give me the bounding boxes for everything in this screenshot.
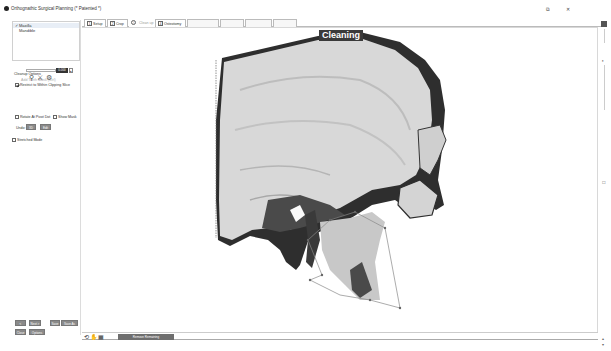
- frame-icon[interactable]: ☐: [602, 180, 606, 185]
- color-icon[interactable]: ◐: [602, 58, 604, 63]
- rotate-icon[interactable]: ⟲: [84, 333, 89, 341]
- skull-model[interactable]: [0, 0, 611, 351]
- divider: [604, 65, 605, 110]
- bottom-toolbar: ⟲ ✋ ▦ Remove Remaining: [82, 332, 598, 340]
- pan-icon[interactable]: ✋: [90, 333, 97, 341]
- scroll-down-icon[interactable]: ▾: [602, 342, 604, 347]
- remove-remaining-button[interactable]: Remove Remaining: [118, 334, 174, 340]
- grid-icon[interactable]: ▦: [98, 333, 104, 341]
- scroll-up-icon[interactable]: ▴: [602, 336, 604, 341]
- mode-overlay-label: Cleaning: [319, 30, 363, 41]
- divider: [604, 29, 605, 43]
- panel-toggle-icon[interactable]: [601, 21, 607, 27]
- view-tool-icons: ⟲ ✋ ▦: [84, 333, 104, 341]
- right-toolbar: ◐ ☐ ▴ ▾: [598, 20, 611, 351]
